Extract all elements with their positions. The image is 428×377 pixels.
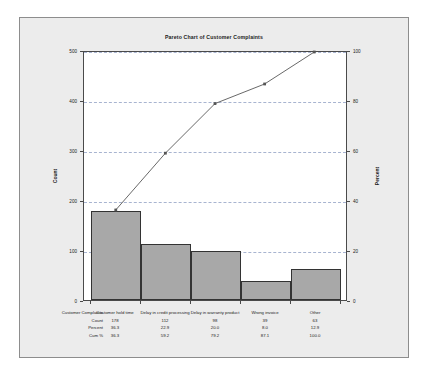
y-axis-left-title: Count bbox=[52, 169, 58, 183]
table-value-cell: 36.3 bbox=[111, 325, 119, 330]
table-row-label: Customer Complaints bbox=[41, 310, 103, 315]
y-axis-right-tick-label: 0 bbox=[353, 299, 356, 304]
table-value-cell: 63 bbox=[313, 318, 318, 323]
plot-area bbox=[83, 51, 347, 301]
table-value-cell: 39 bbox=[263, 318, 268, 323]
table-value-cell: 98 bbox=[213, 318, 218, 323]
table-category-cell: Delay in credit processing bbox=[140, 310, 189, 315]
cumulative-marker bbox=[214, 102, 217, 105]
y-axis-right-tick-label: 100 bbox=[353, 49, 361, 54]
table-value-cell: 8.0 bbox=[262, 325, 268, 330]
cumulative-line bbox=[116, 52, 314, 210]
cumulative-line-series bbox=[84, 52, 346, 300]
x-axis-tick-mark bbox=[90, 301, 91, 304]
plot-inner bbox=[84, 52, 346, 300]
table-value-cell: 87.1 bbox=[261, 333, 269, 338]
y-axis-right-tick-mark bbox=[347, 201, 350, 202]
y-axis-right-tick-mark bbox=[347, 51, 350, 52]
table-value-cell: 36.3 bbox=[111, 333, 119, 338]
table-value-cell: 20.0 bbox=[211, 325, 219, 330]
y-axis-left-tick-label: 200 bbox=[57, 199, 77, 204]
table-category-cell: Other bbox=[310, 310, 321, 315]
cumulative-markers bbox=[114, 51, 315, 212]
y-axis-left-tick-label: 0 bbox=[57, 299, 77, 304]
table-value-cell: 178 bbox=[111, 318, 118, 323]
table-value-cell: 79.2 bbox=[211, 333, 219, 338]
table-row: Cum %36.359.279.287.1100.0 bbox=[41, 333, 387, 341]
y-axis-right-tick-label: 20 bbox=[353, 249, 358, 254]
x-axis-tick-mark bbox=[340, 301, 341, 304]
table-value-cell: 22.9 bbox=[161, 325, 169, 330]
table-row: Count178112983963 bbox=[41, 318, 387, 326]
x-axis-tick-mark bbox=[190, 301, 191, 304]
y-axis-right-tick-label: 40 bbox=[353, 199, 358, 204]
table-value-cell: 100.0 bbox=[310, 333, 321, 338]
table-row: Customer ComplaintsCustomer hold timeDel… bbox=[41, 310, 387, 318]
page-title: Pareto Chart of Customer Complaints bbox=[20, 34, 408, 40]
x-axis-tick-mark bbox=[240, 301, 241, 304]
table-row-label: Count bbox=[41, 318, 103, 323]
y-axis-left-tick-mark bbox=[80, 301, 83, 302]
data-table: Customer ComplaintsCustomer hold timeDel… bbox=[41, 310, 387, 340]
table-row: Percent36.322.920.08.012.9 bbox=[41, 325, 387, 333]
y-axis-right-title: Percent bbox=[374, 167, 380, 185]
table-value-cell: 112 bbox=[162, 318, 169, 323]
table-row-label: Percent bbox=[41, 325, 103, 330]
y-axis-left-tick-label: 100 bbox=[57, 249, 77, 254]
y-axis-left-title-wrap: Count bbox=[50, 51, 60, 301]
table-value-cell: 59.2 bbox=[161, 333, 169, 338]
y-axis-right-tick-mark bbox=[347, 151, 350, 152]
y-axis-left-tick-label: 400 bbox=[57, 99, 77, 104]
cumulative-marker bbox=[313, 51, 316, 54]
table-value-cell: 12.9 bbox=[311, 325, 319, 330]
y-axis-right-tick-mark bbox=[347, 251, 350, 252]
table-category-cell: Customer hold time bbox=[96, 310, 133, 315]
cumulative-marker bbox=[114, 209, 117, 212]
y-axis-right-tick-label: 80 bbox=[353, 99, 358, 104]
y-axis-left-tick-label: 500 bbox=[57, 49, 77, 54]
table-row-label: Cum % bbox=[41, 333, 103, 338]
y-axis-right-title-wrap: Percent bbox=[372, 51, 382, 301]
y-axis-right-tick-mark bbox=[347, 101, 350, 102]
cumulative-marker bbox=[164, 152, 167, 155]
table-category-cell: Delay in warranty product bbox=[191, 310, 240, 315]
x-axis-tick-mark bbox=[290, 301, 291, 304]
y-axis-right-tick-label: 60 bbox=[353, 149, 358, 154]
graph-window: Pareto Chart of Customer Complaints Coun… bbox=[0, 0, 428, 377]
cumulative-marker bbox=[263, 83, 266, 86]
x-axis-tick-mark bbox=[140, 301, 141, 304]
chart-panel: Pareto Chart of Customer Complaints Coun… bbox=[19, 17, 409, 358]
y-axis-right-tick-mark bbox=[347, 301, 350, 302]
y-axis-left-tick-label: 300 bbox=[57, 149, 77, 154]
table-category-cell: Wrong invoice bbox=[251, 310, 278, 315]
